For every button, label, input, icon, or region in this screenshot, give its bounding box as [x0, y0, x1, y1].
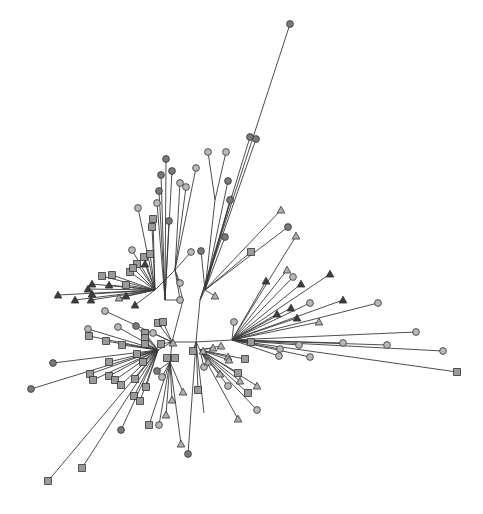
dark-circle-leaf-icon: [287, 21, 294, 28]
square-leaf-icon: [142, 341, 149, 348]
square-leaf-icon: [79, 465, 86, 472]
tree-leaves: [28, 21, 461, 485]
dark-circle-leaf-icon: [253, 136, 260, 143]
light-circle-leaf-icon: [154, 200, 161, 207]
dark-circle-leaf-icon: [154, 368, 161, 375]
dark-circle-leaf-icon: [156, 188, 163, 195]
dark-circle-leaf-icon: [28, 386, 35, 393]
leaf-branch: [188, 342, 196, 454]
dark-circle-leaf-icon: [225, 178, 232, 185]
leaf-branch: [175, 187, 186, 270]
dark-triangle-leaf-icon: [326, 270, 334, 277]
square-leaf-icon: [90, 377, 97, 384]
light-circle-leaf-icon: [102, 308, 109, 315]
light-circle-leaf-icon: [231, 319, 238, 326]
square-leaf-icon: [103, 338, 110, 345]
square-leaf-icon: [134, 351, 141, 358]
square-leaf-icon: [248, 249, 255, 256]
square-leaf-icon: [164, 355, 171, 362]
square-leaf-icon: [146, 422, 153, 429]
light-circle-leaf-icon: [135, 205, 142, 212]
square-leaf-icon: [99, 273, 106, 280]
light-circle-leaf-icon: [177, 280, 184, 287]
square-leaf-icon: [242, 356, 249, 363]
light-triangle-leaf-icon: [236, 377, 244, 384]
square-leaf-icon: [143, 384, 150, 391]
square-leaf-icon: [172, 355, 179, 362]
dark-triangle-leaf-icon: [88, 280, 96, 287]
leaf-branch: [215, 152, 226, 200]
square-leaf-icon: [123, 282, 130, 289]
square-leaf-icon: [109, 272, 116, 279]
light-circle-leaf-icon: [177, 180, 184, 187]
square-leaf-icon: [149, 224, 156, 231]
internal-branch: [196, 300, 200, 342]
light-circle-leaf-icon: [159, 374, 166, 381]
dark-triangle-leaf-icon: [287, 304, 295, 311]
light-triangle-leaf-icon: [315, 318, 323, 325]
light-circle-leaf-icon: [115, 324, 122, 331]
light-circle-leaf-icon: [188, 249, 195, 256]
light-circle-leaf-icon: [307, 354, 314, 361]
light-triangle-leaf-icon: [277, 206, 285, 213]
light-circle-leaf-icon: [183, 184, 190, 191]
light-circle-leaf-icon: [307, 300, 314, 307]
light-circle-leaf-icon: [413, 329, 420, 336]
light-circle-leaf-icon: [129, 247, 136, 254]
dark-circle-leaf-icon: [50, 360, 57, 367]
dark-circle-leaf-icon: [198, 248, 205, 255]
square-leaf-icon: [137, 398, 144, 405]
square-leaf-icon: [106, 359, 113, 366]
light-circle-leaf-icon: [440, 348, 447, 355]
dark-circle-leaf-icon: [133, 323, 140, 330]
light-circle-leaf-icon: [177, 297, 184, 304]
dark-circle-leaf-icon: [222, 234, 229, 241]
square-leaf-icon: [86, 333, 93, 340]
dark-circle-leaf-icon: [185, 451, 192, 458]
light-circle-leaf-icon: [384, 342, 391, 349]
square-leaf-icon: [190, 348, 197, 355]
light-circle-leaf-icon: [156, 422, 163, 429]
square-leaf-icon: [454, 369, 461, 376]
internal-branch: [172, 300, 183, 342]
dark-circle-leaf-icon: [166, 218, 173, 225]
square-leaf-icon: [248, 339, 255, 346]
square-leaf-icon: [132, 376, 139, 383]
dark-circle-leaf-icon: [285, 224, 292, 231]
light-circle-leaf-icon: [296, 342, 303, 349]
square-leaf-icon: [245, 390, 252, 397]
light-triangle-leaf-icon: [179, 388, 187, 395]
light-triangle-leaf-icon: [217, 342, 225, 349]
light-triangle-leaf-icon: [162, 411, 170, 418]
dark-circle-leaf-icon: [118, 427, 125, 434]
light-circle-leaf-icon: [277, 346, 284, 353]
leaf-branch: [201, 251, 205, 290]
light-circle-leaf-icon: [340, 340, 347, 347]
light-circle-leaf-icon: [225, 383, 232, 390]
dark-circle-leaf-icon: [158, 172, 165, 179]
dark-circle-leaf-icon: [227, 197, 234, 204]
leaf-branch: [166, 362, 170, 415]
dark-circle-leaf-icon: [169, 168, 176, 175]
tree-edges: [31, 24, 457, 481]
dark-circle-leaf-icon: [163, 156, 170, 163]
square-leaf-icon: [160, 319, 167, 326]
square-leaf-icon: [118, 382, 125, 389]
light-circle-leaf-icon: [205, 149, 212, 156]
square-leaf-icon: [45, 478, 52, 485]
light-triangle-leaf-icon: [292, 232, 300, 239]
dark-triangle-leaf-icon: [105, 281, 113, 288]
light-circle-leaf-icon: [254, 407, 261, 414]
light-circle-leaf-icon: [193, 165, 200, 172]
light-circle-leaf-icon: [85, 326, 92, 333]
square-leaf-icon: [147, 251, 154, 258]
square-leaf-icon: [140, 359, 147, 366]
light-circle-leaf-icon: [375, 300, 382, 307]
dark-triangle-leaf-icon: [131, 301, 139, 308]
light-circle-leaf-icon: [276, 353, 283, 360]
leaf-branch: [205, 227, 288, 290]
light-triangle-leaf-icon: [234, 415, 242, 422]
light-triangle-leaf-icon: [283, 266, 291, 273]
light-triangle-leaf-icon: [211, 292, 219, 299]
leaf-branch: [232, 270, 287, 340]
